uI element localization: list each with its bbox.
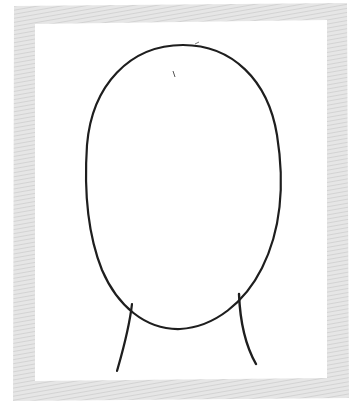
pencil-mark	[173, 71, 175, 77]
neck-right-line	[239, 294, 256, 364]
sketch-canvas	[0, 0, 351, 416]
face-sketch	[0, 0, 351, 416]
neck-left-line	[117, 304, 132, 371]
pencil-mark-top	[195, 42, 199, 44]
picture-frame	[13, 3, 349, 401]
face-outline	[86, 45, 281, 329]
